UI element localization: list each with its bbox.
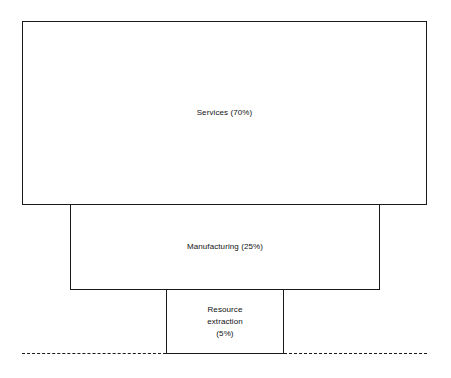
- sector-pyramid-diagram: Services (70%) Manufacturing (25%) Resou…: [0, 0, 451, 378]
- sector-box-resource-extraction: Resource extraction (5%): [166, 289, 284, 354]
- sector-label-services: Services (70%): [197, 107, 253, 119]
- ground-line-right-segment: [284, 353, 427, 354]
- sector-box-services: Services (70%): [22, 21, 427, 205]
- ground-line-left-segment: [22, 353, 166, 354]
- sector-box-manufacturing: Manufacturing (25%): [70, 204, 380, 290]
- sector-label-resource-extraction: Resource extraction (5%): [207, 304, 243, 340]
- sector-label-manufacturing: Manufacturing (25%): [187, 241, 263, 253]
